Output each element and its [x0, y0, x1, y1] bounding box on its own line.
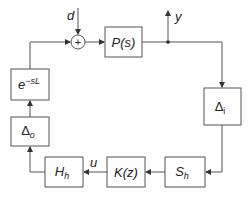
controller-label: K(z)	[114, 165, 138, 180]
plant-label: P(s)	[112, 35, 136, 50]
controller-block: K(z)	[107, 157, 145, 187]
control-signal-label: u	[90, 155, 97, 170]
sampler-sub: h	[184, 171, 189, 181]
block-diagram: d + P(s) y Δi Sh K(z) u Hh	[0, 0, 250, 197]
delay-sup: −sL	[25, 76, 40, 86]
plant-block: P(s)	[105, 27, 142, 57]
delta-i-main: Δ	[215, 99, 224, 114]
delta-o-main: Δ	[21, 123, 30, 138]
delta-i-sub: i	[223, 106, 225, 116]
delta-o-sub: o	[30, 130, 35, 140]
sum-plus-sign: +	[75, 36, 81, 48]
delta-o-block: Δo	[11, 117, 49, 146]
disturbance-label: d	[67, 8, 75, 23]
sum-junction: +	[71, 35, 85, 49]
output-label: y	[174, 9, 183, 24]
delta-i-to-sampler-arrow	[206, 125, 222, 172]
hold-block: Hh	[45, 157, 83, 187]
delay-main: e	[18, 77, 25, 92]
hold-sub: h	[64, 171, 69, 181]
delay-block: e−sL	[11, 69, 49, 100]
sampler-main: S	[175, 164, 184, 179]
delta-i-block: Δi	[204, 88, 241, 125]
sampler-block: Sh	[165, 157, 205, 187]
delay-to-sum-arrow	[30, 42, 70, 69]
hold-to-delta-o-arrow	[30, 147, 45, 172]
